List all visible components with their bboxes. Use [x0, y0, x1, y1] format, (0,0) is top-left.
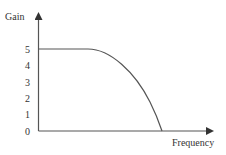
y-tick-3: 3 [25, 77, 30, 88]
y-tick-1: 1 [25, 109, 30, 120]
gain-frequency-chart: Gain Frequency 5 4 3 2 1 0 [0, 0, 226, 155]
y-tick-2: 2 [25, 93, 30, 104]
gain-curve [39, 49, 163, 131]
y-tick-labels: 5 4 3 2 1 0 [25, 44, 30, 137]
y-tick-4: 4 [25, 60, 30, 71]
y-tick-0: 0 [25, 126, 30, 137]
x-axis-label: Frequency [172, 137, 214, 148]
y-axis-label: Gain [5, 11, 24, 22]
y-tick-5: 5 [25, 44, 30, 55]
